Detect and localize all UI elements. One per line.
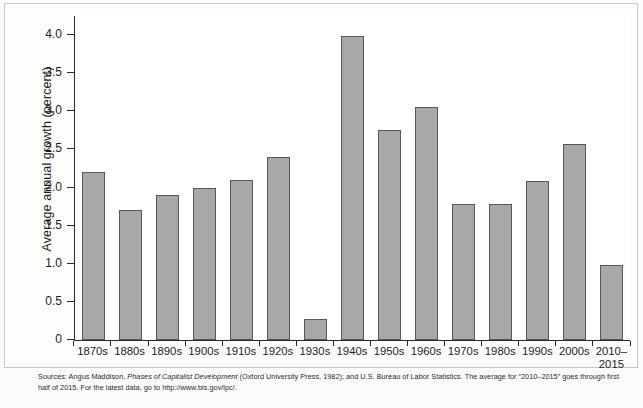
y-tick-3: 1.5 xyxy=(67,225,75,226)
bar-slot-1890s xyxy=(149,16,186,340)
bar[interactable] xyxy=(82,172,105,340)
bar[interactable] xyxy=(156,195,179,340)
y-tick-label-5: 2.5 xyxy=(45,141,62,155)
bar[interactable] xyxy=(119,210,142,340)
source-note-title: Phases of Capitalist Development xyxy=(127,372,237,381)
bar-slot-1950s xyxy=(371,16,408,340)
bar-slot-1960s xyxy=(408,16,445,340)
source-note-part1: Sources: Angus Maddison, xyxy=(38,372,127,381)
bar-slot-1980s xyxy=(482,16,519,340)
x-tick-label-2: 1890s xyxy=(148,345,185,370)
bar-series xyxy=(75,16,630,340)
bar[interactable] xyxy=(341,36,364,340)
bar[interactable] xyxy=(526,181,549,340)
y-tick-label-2: 1.0 xyxy=(45,256,62,270)
plot-area: 00.51.01.52.02.53.03.54.0 xyxy=(74,16,630,341)
chart-figure-frame: Average annual growth (percent) 00.51.01… xyxy=(4,3,638,368)
bar-slot-1970s xyxy=(445,16,482,340)
bar[interactable] xyxy=(489,204,512,340)
x-tick-label-12: 1990s xyxy=(519,345,556,370)
source-note: Sources: Angus Maddison, Phases of Capit… xyxy=(38,372,623,393)
bar[interactable] xyxy=(563,144,586,340)
y-tick-label-3: 1.5 xyxy=(45,218,62,232)
bar-slot-1880s xyxy=(112,16,149,340)
bar-slot-1930s xyxy=(297,16,334,340)
y-tick-label-4: 2.0 xyxy=(45,180,62,194)
x-tick-label-3: 1900s xyxy=(185,345,222,370)
x-tick-label-6: 1930s xyxy=(296,345,333,370)
y-tick-label-0: 0 xyxy=(55,332,62,346)
y-tick-5: 2.5 xyxy=(67,148,75,149)
bar-slot-1900s xyxy=(186,16,223,340)
y-tick-6: 3.0 xyxy=(67,110,75,111)
y-tick-2: 1.0 xyxy=(67,263,75,264)
y-tick-4: 2.0 xyxy=(67,187,75,188)
x-tick-label-8: 1950s xyxy=(371,345,408,370)
x-tick-label-7: 1940s xyxy=(333,345,370,370)
bar-slot-1990s xyxy=(519,16,556,340)
y-tick-1: 0.5 xyxy=(67,301,75,302)
x-tick-label-9: 1960s xyxy=(408,345,445,370)
bar[interactable] xyxy=(452,204,475,340)
y-tick-label-8: 4.0 xyxy=(45,27,62,41)
bar-slot-1870s xyxy=(75,16,112,340)
x-tick-label-4: 1910s xyxy=(222,345,259,370)
x-tick-label-10: 1970s xyxy=(445,345,482,370)
bar-slot-1920s xyxy=(260,16,297,340)
bar[interactable] xyxy=(193,188,216,340)
y-tick-0: 0 xyxy=(67,339,75,340)
bar[interactable] xyxy=(415,107,438,340)
figure-page: Average annual growth (percent) 00.51.01… xyxy=(0,0,643,408)
y-tick-label-6: 3.0 xyxy=(45,103,62,117)
y-tick-8: 4.0 xyxy=(67,34,75,35)
bar-slot-2010–2015 xyxy=(593,16,630,340)
bar-slot-1910s xyxy=(223,16,260,340)
bar[interactable] xyxy=(267,157,290,340)
x-tick-label-0: 1870s xyxy=(74,345,111,370)
x-tick-label-13: 2000s xyxy=(556,345,593,370)
x-tick-label-11: 1980s xyxy=(482,345,519,370)
bar[interactable] xyxy=(230,180,253,340)
bar[interactable] xyxy=(378,130,401,340)
bar[interactable] xyxy=(600,265,623,340)
x-axis-tick-labels: 1870s1880s1890s1900s1910s1920s1930s1940s… xyxy=(74,345,630,370)
y-tick-7: 3.5 xyxy=(67,72,75,73)
y-tick-label-1: 0.5 xyxy=(45,294,62,308)
bar-slot-1940s xyxy=(334,16,371,340)
bar-slot-2000s xyxy=(556,16,593,340)
x-tick-label-14: 2010– 2015 xyxy=(593,345,630,370)
x-tick-label-1: 1880s xyxy=(111,345,148,370)
x-tick-label-5: 1920s xyxy=(259,345,296,370)
bar[interactable] xyxy=(304,319,327,340)
y-tick-label-7: 3.5 xyxy=(45,65,62,79)
